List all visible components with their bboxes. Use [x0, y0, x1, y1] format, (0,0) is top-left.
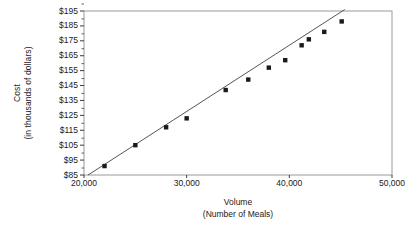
x-axis-tick-labels: 20,00030,00040,00050,000: [0, 178, 420, 192]
data-point-marker: [164, 125, 168, 129]
x-axis-title-sub: (Number of Meals): [84, 209, 392, 221]
plot-frame: [84, 11, 392, 175]
x-tick-label: 20,000: [71, 178, 97, 188]
data-point-marker: [223, 88, 227, 92]
data-point-marker: [299, 43, 303, 47]
data-point-marker: [102, 164, 106, 168]
data-point-marker: [267, 65, 271, 69]
x-tick-label: 50,000: [379, 178, 405, 188]
data-point-marker: [283, 58, 287, 62]
x-axis-title-main: Volume: [84, 197, 392, 209]
data-point-marker: [184, 116, 188, 120]
data-point-marker: [133, 143, 137, 147]
data-point-marker: [307, 37, 311, 41]
x-tick-label: 30,000: [174, 178, 200, 188]
x-axis-title: Volume (Number of Meals): [84, 197, 392, 220]
data-point-marker: [246, 77, 250, 81]
regression-line: [88, 10, 345, 175]
x-tick-label: 40,000: [276, 178, 302, 188]
chart-figure: Cost (in thousands of dollars) $85$95$10…: [0, 0, 420, 237]
data-point-marker: [322, 30, 326, 34]
data-point-marker: [339, 19, 343, 23]
